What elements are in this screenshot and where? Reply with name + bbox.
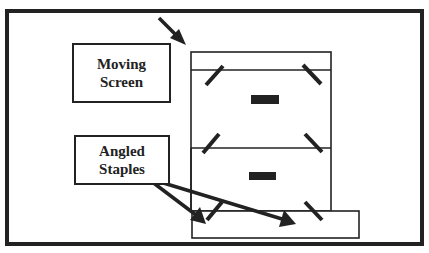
diagram-canvas <box>0 0 429 253</box>
moving-screen-label-box: Moving Screen <box>72 43 171 103</box>
angled-staples-label-box: Angled Staples <box>74 135 170 185</box>
handle-lower <box>249 172 276 180</box>
handle-upper <box>251 95 279 104</box>
moving-screen-label-line2: Screen <box>100 73 143 91</box>
angled-staples-label-line2: Staples <box>99 160 145 178</box>
base-platform <box>192 211 359 238</box>
moving-screen-label-line1: Moving <box>97 55 146 73</box>
angled-staples-label-line1: Angled <box>99 142 145 160</box>
